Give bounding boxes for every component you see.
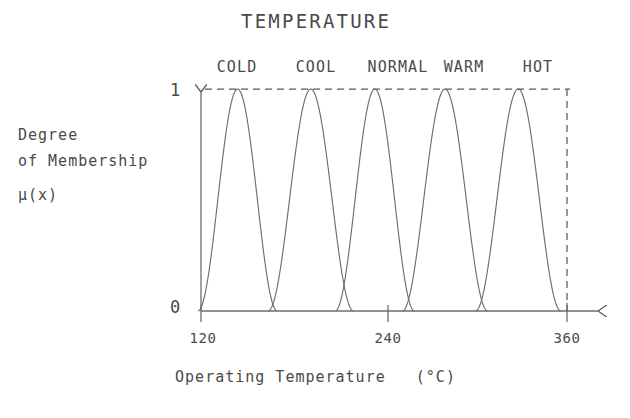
curve-normal (335, 89, 414, 311)
y-tick-label-top: 1 (170, 80, 180, 100)
x-tick-label-240: 240 (374, 330, 401, 346)
chart-title: TEMPERATURE (0, 10, 630, 32)
set-label-hot: HOT (523, 58, 553, 76)
reference-lines-group (205, 89, 570, 311)
x-tick-label-360: 360 (553, 330, 580, 346)
y-axis-label-line-1: Degree (18, 126, 78, 144)
tick-marks-group (201, 303, 567, 322)
y-tick-label-bottom: 0 (170, 297, 180, 317)
fuzzy-membership-figure: TEMPERATURE COLD COOL NORMAL WARM HOT De… (0, 0, 630, 418)
set-label-cold: COLD (217, 58, 258, 76)
set-label-warm: WARM (444, 58, 485, 76)
set-label-normal: NORMAL (368, 58, 429, 76)
curve-cold (198, 89, 277, 311)
y-axis-label-line-3: μ(x) (18, 186, 58, 204)
set-label-cool: COOL (296, 58, 337, 76)
axes-group (201, 92, 598, 311)
curve-cool (268, 89, 353, 311)
curve-hot (476, 89, 561, 311)
y-axis-label-line-2: of Membership (18, 152, 148, 170)
curve-warm (402, 89, 487, 311)
x-axis-label: Operating Temperature (°C) (0, 368, 630, 386)
x-tick-label-120: 120 (189, 330, 216, 346)
membership-curves-group (198, 89, 561, 311)
